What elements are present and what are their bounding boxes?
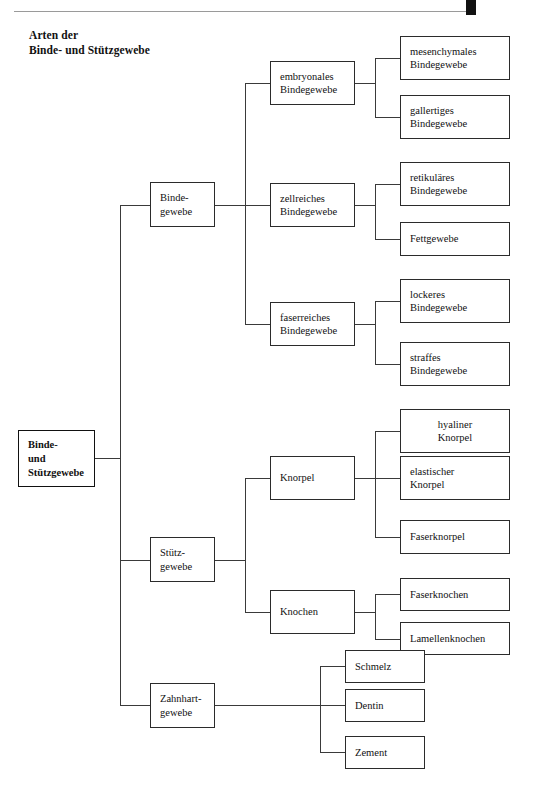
edge-zahnhartgewebe-stub — [215, 705, 320, 706]
header-rule — [14, 11, 474, 12]
edge-knorpel-stub — [355, 478, 375, 479]
edge-to-elastischer — [375, 478, 400, 479]
node-zellreiches-bindegewebe[interactable]: zellreiches Bindegewebe — [270, 183, 355, 227]
edge-trunk-to-stuetzgewebe — [120, 560, 150, 561]
edge-to-embryonales — [245, 83, 270, 84]
edge-to-dentin — [320, 705, 345, 706]
node-gallertiges-bindegewebe[interactable]: gallertiges Bindegewebe — [400, 95, 510, 139]
node-zahnhartgewebe[interactable]: Zahnhart- gewebe — [150, 683, 215, 728]
node-faserknochen[interactable]: Faserknochen — [400, 578, 510, 611]
node-retikulaeres-bindegewebe[interactable]: retikuläres Bindegewebe — [400, 162, 510, 206]
node-fettgewebe[interactable]: Fettgewebe — [400, 222, 510, 256]
page-thumb-index-marker — [466, 0, 476, 15]
node-lamellenknochen-label: Lamellenknochen — [401, 632, 485, 646]
diagram-canvas: Arten der Binde- und Stützgewebe — [0, 0, 533, 789]
node-zellreiches-bindegewebe-label: zellreiches Bindegewebe — [271, 192, 337, 219]
node-zement-label: Zement — [346, 746, 387, 760]
node-elastischer-knorpel[interactable]: elastischer Knorpel — [400, 456, 510, 500]
node-bindegewebe[interactable]: Binde- gewebe — [150, 182, 215, 227]
node-knochen-label: Knochen — [271, 605, 318, 619]
edge-trunk-knorpel-children — [375, 431, 376, 537]
node-knorpel[interactable]: Knorpel — [270, 456, 355, 500]
page-title-line1: Arten der — [29, 29, 78, 41]
node-zement[interactable]: Zement — [345, 736, 425, 769]
edge-to-lockeres — [375, 301, 400, 302]
edge-to-schmelz — [320, 666, 345, 667]
edge-to-mesenchymales — [375, 58, 400, 59]
edge-to-zement — [320, 752, 345, 753]
node-root-label: Binde- und Stützgewebe — [19, 438, 84, 480]
edge-trunk-knochen-children — [375, 594, 376, 639]
node-hyaliner-knorpel[interactable]: hyaliner Knorpel — [400, 409, 510, 453]
node-faserreiches-bindegewebe[interactable]: faserreiches Bindegewebe — [270, 302, 355, 346]
edge-trunk-bindegewebe-children — [245, 83, 246, 324]
edge-to-hyaliner — [375, 431, 400, 432]
page-title-line2: Binde- und Stützgewebe — [29, 44, 150, 56]
edge-to-knorpel — [245, 478, 270, 479]
node-faserknochen-label: Faserknochen — [401, 588, 468, 602]
edge-knochen-stub — [355, 612, 375, 613]
edge-to-straffes — [375, 364, 400, 365]
edge-trunk-embryonales-children — [375, 58, 376, 117]
node-mesenchymales-bindegewebe-label: mesenchymales Bindegewebe — [401, 45, 476, 72]
edge-trunk-to-bindegewebe — [120, 205, 150, 206]
node-knorpel-label: Knorpel — [271, 471, 314, 485]
edge-to-gallertiges — [375, 117, 400, 118]
edge-trunk-stuetzgewebe-children — [245, 478, 246, 612]
node-elastischer-knorpel-label: elastischer Knorpel — [401, 465, 454, 492]
node-lockeres-bindegewebe-label: lockeres Bindegewebe — [401, 288, 467, 315]
node-zahnhartgewebe-label: Zahnhart- gewebe — [151, 692, 201, 719]
edge-stuetzgewebe-stub — [215, 560, 245, 561]
edge-to-faserknochen — [375, 594, 400, 595]
node-mesenchymales-bindegewebe[interactable]: mesenchymales Bindegewebe — [400, 36, 510, 80]
edge-embryonales-stub — [355, 83, 375, 84]
node-straffes-bindegewebe[interactable]: straffes Bindegewebe — [400, 342, 510, 386]
node-faserknorpel-label: Faserknorpel — [401, 530, 465, 544]
node-schmelz[interactable]: Schmelz — [345, 650, 425, 683]
edge-to-retikulaeres — [375, 184, 400, 185]
edge-to-lamellenknochen — [375, 639, 400, 640]
edge-trunk-zahnhart-children — [320, 666, 321, 752]
edge-zellreiches-stub — [355, 205, 375, 206]
edge-to-faserknorpel — [375, 537, 400, 538]
edge-trunk-to-zahnhartgewebe — [120, 705, 150, 706]
node-lockeres-bindegewebe[interactable]: lockeres Bindegewebe — [400, 279, 510, 323]
node-embryonales-bindegewebe-label: embryonales Bindegewebe — [271, 70, 337, 97]
edge-to-zellreiches — [245, 205, 270, 206]
node-bindegewebe-label: Binde- gewebe — [151, 191, 192, 218]
node-straffes-bindegewebe-label: straffes Bindegewebe — [401, 351, 467, 378]
node-hyaliner-knorpel-label: hyaliner Knorpel — [401, 418, 509, 445]
page-title: Arten der Binde- und Stützgewebe — [29, 28, 150, 57]
edge-to-knochen — [245, 612, 270, 613]
node-stuetzgewebe-label: Stütz- gewebe — [151, 546, 192, 573]
edge-trunk-level2 — [120, 205, 121, 705]
edge-faserreiches-stub — [355, 324, 375, 325]
node-stuetzgewebe[interactable]: Stütz- gewebe — [150, 537, 215, 582]
edge-to-fettgewebe — [375, 239, 400, 240]
node-knochen[interactable]: Knochen — [270, 590, 355, 634]
edge-trunk-zellreiches-children — [375, 184, 376, 239]
node-faserreiches-bindegewebe-label: faserreiches Bindegewebe — [271, 311, 337, 338]
node-root[interactable]: Binde- und Stützgewebe — [18, 430, 95, 487]
node-embryonales-bindegewebe[interactable]: embryonales Bindegewebe — [270, 61, 355, 105]
edge-to-faserreiches — [245, 324, 270, 325]
node-fettgewebe-label: Fettgewebe — [401, 232, 458, 246]
edge-root-stub — [95, 458, 120, 459]
node-faserknorpel[interactable]: Faserknorpel — [400, 520, 510, 554]
edge-trunk-faserreiches-children — [375, 301, 376, 364]
node-schmelz-label: Schmelz — [346, 660, 391, 674]
edge-bindegewebe-stub — [215, 205, 245, 206]
node-dentin[interactable]: Dentin — [345, 689, 425, 722]
node-dentin-label: Dentin — [346, 699, 384, 713]
node-retikulaeres-bindegewebe-label: retikuläres Bindegewebe — [401, 171, 467, 198]
node-gallertiges-bindegewebe-label: gallertiges Bindegewebe — [401, 104, 467, 131]
